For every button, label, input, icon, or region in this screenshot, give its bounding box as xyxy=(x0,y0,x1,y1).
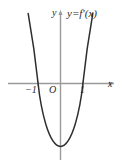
x-axis-label: x xyxy=(108,79,112,89)
curve-equation-label: y=f′(x) xyxy=(67,8,97,19)
y-axis-label: y xyxy=(52,8,56,18)
origin-label: O xyxy=(49,85,56,95)
coordinate-plot xyxy=(0,0,122,168)
x-tick-label-neg1: −1 xyxy=(25,85,37,95)
x-tick-label-pos1: 1 xyxy=(80,85,85,95)
y-axis-arrow-icon xyxy=(58,10,62,15)
graph-figure: y=f′(x) y x O −1 1 xyxy=(0,0,122,168)
